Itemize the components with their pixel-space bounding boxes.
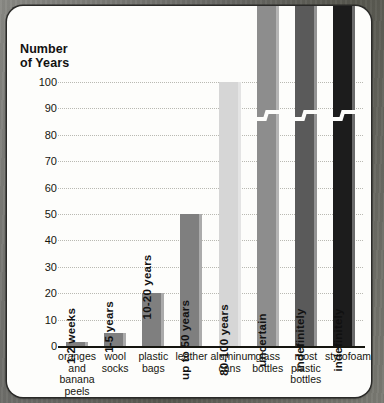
bar-highlight (238, 82, 241, 346)
x-axis-category-label: plasticbags (134, 351, 172, 374)
x-axis-category-label: leather (172, 351, 210, 363)
x-axis-category-label: mostplasticbottles (287, 351, 325, 386)
gridline (58, 161, 363, 162)
bar-value-label: up to 50 years (179, 300, 191, 380)
bar-highlight (352, 6, 355, 346)
y-axis-tick-label: 60 (19, 182, 57, 194)
y-axis-tick-label: 100 (19, 76, 57, 88)
x-axis-category-label: glassbottles (249, 351, 287, 374)
y-axis-tick-label: 0 (19, 340, 57, 352)
x-axis-category-line: bags (134, 363, 172, 375)
axis-break-mark (255, 109, 281, 123)
bar-wool-socks[interactable]: 1-5 years (104, 333, 126, 346)
gridline (58, 267, 363, 268)
chart-page: Number of Years 10090807060504030201001-… (0, 0, 384, 403)
bar-plastic-bags[interactable]: 10-20 years (142, 293, 164, 346)
x-axis-category-line: aluminum (211, 351, 249, 363)
x-axis-category-label: aluminumcans (211, 351, 249, 374)
x-axis-category-label: orangesandbananapeels (58, 351, 96, 397)
x-axis-category-line: banana (58, 374, 96, 386)
x-axis-category-line: oranges (58, 351, 96, 363)
bar-value-label: 1-5 years (103, 301, 115, 353)
bar-highlight (276, 6, 279, 346)
y-axis-tick-label: 30 (19, 261, 57, 273)
plot-area: 10090807060504030201001-2 weeks1-5 years… (7, 6, 371, 397)
x-axis-category-line: bottles (287, 374, 325, 386)
gridline (58, 240, 363, 241)
bar-aluminum-cans[interactable]: 80-100 years (219, 82, 241, 346)
x-axis-category-line: socks (96, 363, 134, 375)
bar-oranges-and-banana-peels[interactable]: 1-2 weeks (66, 342, 88, 346)
bar-glass-bottles[interactable]: uncertain (257, 6, 279, 346)
bar-highlight (85, 342, 88, 346)
axis-break-mark (293, 109, 319, 123)
y-axis-tick-label: 10 (19, 314, 57, 326)
bar-value-label: 10-20 years (141, 255, 153, 320)
x-axis-category-line: most (287, 351, 325, 363)
y-axis-tick-label: 70 (19, 155, 57, 167)
bar-leather[interactable]: up to 50 years (180, 214, 202, 346)
y-axis-tick-label: 40 (19, 234, 57, 246)
x-axis-category-line: wool (96, 351, 134, 363)
bar-highlight (123, 333, 126, 346)
gridline (58, 214, 363, 215)
gridline (58, 135, 363, 136)
x-axis-category-label: styrofoam (325, 351, 363, 363)
y-axis-tick-label: 90 (19, 102, 57, 114)
bar-highlight (161, 293, 164, 346)
y-axis-tick-label: 20 (19, 287, 57, 299)
x-axis-category-line: glass (249, 351, 287, 363)
gridline (58, 82, 363, 83)
x-axis-category-line: peels (58, 386, 96, 398)
chart-card: Number of Years 10090807060504030201001-… (7, 6, 371, 397)
x-axis-category-line: plastic (134, 351, 172, 363)
gridline (58, 188, 363, 189)
x-axis-category-line: bottles (249, 363, 287, 375)
x-axis-category-line: leather (172, 351, 210, 363)
x-axis-category-line: styrofoam (325, 351, 363, 363)
bar-highlight (314, 6, 317, 346)
x-axis-category-label: woolsocks (96, 351, 134, 374)
gridline (58, 293, 363, 294)
y-axis-tick-label: 80 (19, 129, 57, 141)
bar-highlight (199, 214, 202, 346)
bar-most-plastic-bottles[interactable]: indefinitely (295, 6, 317, 346)
axis-break-mark (331, 109, 357, 123)
y-axis-tick-label: 50 (19, 208, 57, 220)
x-axis-category-line: cans (211, 363, 249, 375)
bar-styrofoam[interactable]: indefinitely (333, 6, 355, 346)
